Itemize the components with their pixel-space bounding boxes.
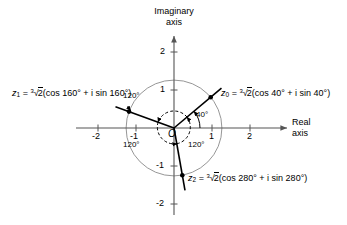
complex-plane-diagram <box>0 0 347 225</box>
real-axis-label-line2: axis <box>292 128 308 138</box>
z0-expression: (cos 40° + i sin 40°) <box>252 88 330 98</box>
z1-expression: (cos 160° + i sin 160°) <box>43 88 132 98</box>
x-tick-label-2: 2 <box>247 131 252 141</box>
z2-equals: = <box>199 173 204 183</box>
point-z2 <box>180 173 185 178</box>
y-tick-label--2: -2 <box>156 198 164 208</box>
z2-expression: (cos 280° + i sin 280°) <box>219 173 308 183</box>
ray-z0 <box>174 88 222 128</box>
x-tick-label--2: -2 <box>92 131 100 141</box>
real-axis-label: Real axis <box>292 117 332 138</box>
z0-equals: = <box>232 88 237 98</box>
imaginary-axis-label-line2: axis <box>166 17 182 27</box>
imaginary-axis-label-line1: Imaginary <box>154 6 194 16</box>
angle-120-lower-right-label: 120° <box>188 140 205 150</box>
z0-radical: 3√2 <box>239 86 251 98</box>
y-tick-label-2: 2 <box>160 46 165 56</box>
y-tick-label-1: 1 <box>160 84 165 94</box>
angle-40-label: 40° <box>196 110 208 120</box>
z2-radical-index: 3 <box>206 173 209 179</box>
real-axis-label-line1: Real <box>292 117 311 127</box>
z2-radical: 3√2 <box>206 171 218 183</box>
z2-subscript: 2 <box>193 176 197 183</box>
x-tick-label-1: 1 <box>209 131 214 141</box>
z1-radical-index: 3 <box>30 88 33 94</box>
root-label-z2: z2 = 3√2(cos 280° + i sin 280°) <box>188 171 307 185</box>
z1-equals: = <box>23 88 28 98</box>
z1-radical: 3√2 <box>30 86 42 98</box>
angle-120-lower-left-label: 120° <box>123 140 140 150</box>
root-label-z1: z1 = 3√2(cos 160° + i sin 160°) <box>12 86 131 100</box>
ray-z1 <box>116 107 175 128</box>
y-tick-label--1: -1 <box>156 160 164 170</box>
root-label-z0: z0 = 3√2(cos 40° + i sin 40°) <box>221 86 330 100</box>
imaginary-axis-label: Imaginary axis <box>141 6 207 27</box>
z1-subscript: 1 <box>17 91 21 98</box>
point-z0 <box>208 95 213 100</box>
z0-subscript: 0 <box>226 91 230 98</box>
z0-radical-index: 3 <box>239 88 242 94</box>
origin-label: O <box>168 129 176 139</box>
